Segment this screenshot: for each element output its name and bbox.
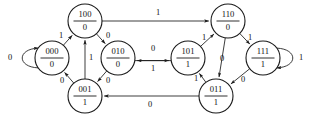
edge-label-011-101: 1 [194, 74, 198, 83]
state-node-output-label-100: 0 [83, 22, 87, 32]
edge-label-100-110: 1 [156, 8, 160, 17]
edge-100-to-010 [96, 34, 105, 44]
state-node-output-label-111: 1 [261, 59, 265, 69]
state-node-100[interactable]: 1000 [68, 4, 102, 38]
fsm-svg-canvas: 10001100000001001011111100110111 0101010… [0, 0, 311, 118]
state-node-011[interactable]: 0111 [199, 79, 233, 113]
state-node-010[interactable]: 0100 [101, 41, 135, 75]
edge-label-101-010: 0 [151, 44, 155, 53]
edge-label-010-001: 0 [106, 76, 110, 85]
edge-011-to-101 [199, 73, 206, 82]
state-node-111[interactable]: 1111 [246, 41, 280, 75]
edge-label-010-101: 1 [151, 64, 155, 73]
state-node-output-label-101: 1 [186, 59, 190, 69]
edge-label-001-100: 1 [89, 53, 93, 62]
state-node-output-label-011: 1 [214, 97, 218, 107]
state-node-state-label-011: 011 [210, 84, 223, 94]
edge-label-000-000: 0 [8, 53, 12, 62]
edge-label-000-100: 1 [59, 31, 63, 40]
state-diagram-container: 10001100000001001011111100110111 0101010… [0, 0, 311, 118]
state-node-state-label-101: 101 [182, 46, 195, 56]
nodes-layer: 10001100000001001011111100110111 [35, 4, 280, 113]
edge-label-111-111: 1 [299, 53, 303, 62]
state-node-output-label-000: 0 [50, 59, 54, 69]
edge-label-011-001: 0 [148, 100, 152, 109]
state-node-state-label-010: 010 [112, 46, 125, 56]
state-node-000[interactable]: 0000 [35, 41, 69, 75]
state-node-110[interactable]: 1100 [211, 4, 245, 38]
state-node-state-label-111: 111 [257, 46, 269, 56]
edge-label-111-011: 0 [241, 75, 245, 84]
edge-label-110-111: 1 [248, 33, 252, 42]
state-node-state-label-110: 110 [222, 9, 235, 19]
edge-label-110-011: 0 [220, 54, 224, 63]
state-node-001[interactable]: 0011 [68, 79, 102, 113]
state-node-state-label-100: 100 [79, 9, 92, 19]
state-node-state-label-000: 000 [46, 46, 59, 56]
edge-001-to-000 [65, 73, 74, 84]
state-node-101[interactable]: 1011 [171, 41, 205, 75]
state-node-output-label-110: 0 [226, 22, 230, 32]
edge-000-to-100 [63, 35, 72, 45]
edge-label-100-010: 0 [106, 31, 110, 40]
state-node-output-label-001: 1 [83, 97, 87, 107]
state-node-output-label-010: 0 [116, 59, 120, 69]
edge-label-101-110: 1 [202, 33, 206, 42]
state-node-state-label-001: 001 [79, 84, 92, 94]
edge-label-001-000: 0 [60, 76, 64, 85]
